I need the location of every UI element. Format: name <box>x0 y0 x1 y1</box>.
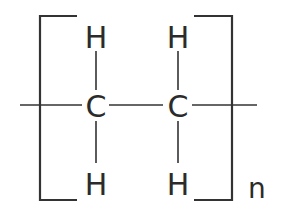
atom-h3: H <box>85 167 108 202</box>
atom-h2: H <box>167 20 190 55</box>
atom-h1: H <box>85 20 108 55</box>
right-bracket <box>194 16 232 200</box>
repeat-subscript-n: n <box>248 172 266 205</box>
atom-h4: H <box>167 167 190 202</box>
atom-c1: C <box>86 89 107 124</box>
left-bracket <box>40 16 77 200</box>
atom-c2: C <box>168 89 189 124</box>
polyethylene-structure: H H C C H H n <box>0 0 282 218</box>
